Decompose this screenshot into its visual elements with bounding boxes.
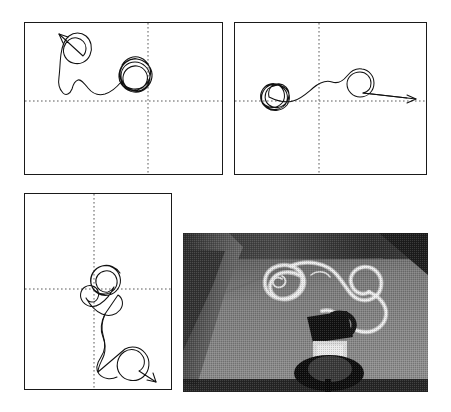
trajectory-path [59,33,152,95]
long-exposure-photo-image [183,233,428,392]
photo-halftone-overlay [183,233,428,392]
long-exposure-photo [183,233,428,392]
trajectory-descent [97,314,117,379]
panel-top-right [234,22,427,175]
trajectory-path [81,265,156,382]
trajectory-path [261,69,407,111]
panel-bottom-left-plot [25,194,171,389]
panel-bottom-left [24,193,172,390]
panel-top-left [24,22,223,175]
figure-root [0,0,451,412]
panel-top-right-plot [235,23,426,174]
panel-top-left-plot [25,23,222,174]
